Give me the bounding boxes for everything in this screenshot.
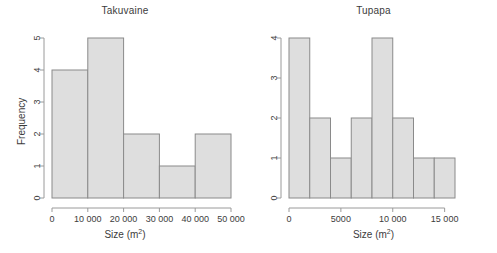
histogram-bar [124,134,160,198]
x-axis-tick-label: 5000 [331,214,351,224]
x-axis-label-tupapa: Size (m2) [250,228,497,240]
x-axis-label-text: Size (m [353,229,387,240]
plot-area-tupapa: 012340500010 00015 000 [250,0,497,253]
y-axis-tick-label: 3 [32,99,42,104]
histogram-bar [372,38,393,198]
histogram-bar [434,158,455,198]
histogram-figure: Takuvaine 012345010 00020 00030 00040 00… [0,0,497,253]
x-axis-tick-label: 15 000 [431,214,459,224]
histogram-bar [393,118,414,198]
x-axis-label-text: Size (m [104,229,138,240]
x-axis-tick-label: 50 000 [217,214,245,224]
x-axis-tick-label: 10 000 [379,214,407,224]
y-axis-tick-label: 4 [32,67,42,72]
plot-svg-tupapa: 012340500010 00015 000 [250,0,497,253]
histogram-bar [195,134,231,198]
chart-panel-tupapa: Tupapa 012340500010 00015 000 Size (m2) [250,0,497,253]
x-axis-tick-label: 0 [49,214,54,224]
y-axis-tick-label: 0 [32,195,42,200]
chart-panel-takuvaine: Takuvaine 012345010 00020 00030 00040 00… [0,0,250,253]
x-axis-label-suffix: ) [391,229,394,240]
x-axis-tick-label: 30 000 [146,214,174,224]
histogram-bar [88,38,124,198]
y-axis-tick-label: 1 [269,155,279,160]
histogram-bar [331,158,352,198]
histogram-bar [310,118,331,198]
x-axis-tick-label: 20 000 [110,214,138,224]
y-axis-tick-label: 2 [269,115,279,120]
y-axis-tick-label: 5 [32,35,42,40]
y-axis-label-frequency: Frequency [16,98,27,145]
y-axis-tick-label: 1 [32,163,42,168]
x-axis-label-suffix: ) [142,229,145,240]
histogram-bar [414,158,435,198]
y-axis-tick-label: 0 [269,195,279,200]
y-axis-tick-label: 2 [32,131,42,136]
histogram-bar [52,70,88,198]
x-axis-label-takuvaine: Size (m2) [0,228,250,240]
x-axis-tick-label: 40 000 [181,214,209,224]
histogram-bar [159,166,195,198]
x-axis-tick-label: 10 000 [74,214,102,224]
histogram-bar [289,38,310,198]
histogram-bar [351,118,372,198]
y-axis-tick-label: 3 [269,75,279,80]
plot-svg-takuvaine: 012345010 00020 00030 00040 00050 000 [0,0,250,253]
y-axis-tick-label: 4 [269,35,279,40]
x-axis-tick-label: 0 [286,214,291,224]
plot-area-takuvaine: 012345010 00020 00030 00040 00050 000 [0,0,250,253]
